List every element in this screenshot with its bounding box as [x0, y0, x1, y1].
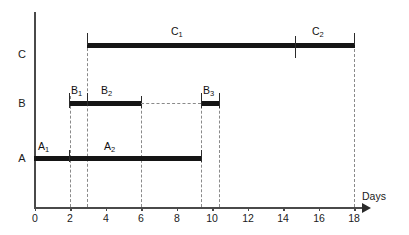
bar-label-b2: B2 [101, 84, 112, 98]
timeline-diagram: Days 0 2 4 6 8 10 12 14 16 18 C B A C1 C… [0, 0, 409, 235]
bar-label-b1: B1 [71, 84, 82, 98]
x-tick-12 [248, 207, 250, 211]
bar-c1-c2 [87, 43, 355, 48]
bar-b3-start-cap [201, 93, 202, 108]
bar-label-a2-text: A [104, 140, 111, 152]
x-tick-label-18: 18 [342, 212, 366, 224]
bar-label-c2-text: C [312, 25, 320, 37]
x-tick-label-10: 10 [200, 212, 224, 224]
bar-a1-a2 [34, 156, 201, 161]
x-tick-label-12: 12 [236, 212, 260, 224]
guide-day-18 [354, 44, 355, 207]
bar-c-start-cap [87, 33, 88, 45]
row-label-c: C [14, 48, 30, 60]
x-tick-0 [35, 207, 37, 211]
bar-label-a2: A2 [104, 140, 115, 154]
x-tick-label-0: 0 [23, 212, 47, 224]
bar-label-b1-text: B [71, 84, 78, 96]
bar-label-b3: B3 [203, 84, 214, 98]
row-label-a: A [14, 152, 30, 164]
bar-a1-a2-divider [69, 150, 70, 162]
x-tick-label-8: 8 [165, 212, 189, 224]
bar-b1-b2 [69, 101, 141, 106]
row-label-b: B [14, 97, 30, 109]
bar-b-slack-connector [141, 103, 201, 104]
x-tick-label-14: 14 [271, 212, 295, 224]
bar-label-a1: A1 [38, 140, 49, 154]
bar-b3-end-cap [219, 93, 220, 108]
x-axis-line [34, 207, 364, 209]
bar-c1-c2-divider [295, 36, 296, 58]
bar-label-b3-text: B [203, 84, 210, 96]
x-tick-10 [212, 207, 214, 211]
guide-day-11 [219, 96, 220, 207]
bar-label-a1-sub: 1 [45, 145, 49, 154]
x-tick-label-6: 6 [129, 212, 153, 224]
guide-day-6 [141, 96, 142, 207]
bar-b3 [201, 101, 219, 106]
x-tick-6 [141, 207, 143, 211]
bar-b1-b2-divider [87, 93, 88, 106]
bar-label-a1-text: A [38, 140, 45, 152]
x-tick-2 [70, 207, 72, 211]
bar-label-b3-sub: 3 [210, 89, 214, 98]
bar-label-c1-text: C [171, 25, 179, 37]
bar-c-end-cap [354, 33, 355, 45]
bar-b2-end-cap [141, 96, 142, 108]
bar-label-b2-text: B [101, 84, 108, 96]
bar-label-c2-sub: 2 [320, 30, 324, 39]
bar-label-c2: C2 [312, 25, 324, 39]
bar-label-a2-sub: 2 [111, 145, 115, 154]
x-tick-label-2: 2 [58, 212, 82, 224]
x-tick-label-16: 16 [307, 212, 331, 224]
x-tick-18 [354, 207, 356, 211]
bar-label-c1-sub: 1 [179, 30, 183, 39]
x-tick-16 [319, 207, 321, 211]
x-tick-4 [106, 207, 108, 211]
y-axis-line [34, 12, 36, 208]
bar-a-end-cap [201, 150, 202, 162]
bar-b1-start-cap [69, 93, 70, 108]
bar-label-b2-sub: 2 [108, 89, 112, 98]
x-tick-label-4: 4 [94, 212, 118, 224]
bar-label-c1: C1 [171, 25, 183, 39]
bar-label-b1-sub: 1 [78, 89, 82, 98]
x-tick-8 [177, 207, 179, 211]
guide-day-3 [87, 38, 88, 207]
x-tick-14 [283, 207, 285, 211]
x-axis-title: Days [362, 190, 386, 202]
